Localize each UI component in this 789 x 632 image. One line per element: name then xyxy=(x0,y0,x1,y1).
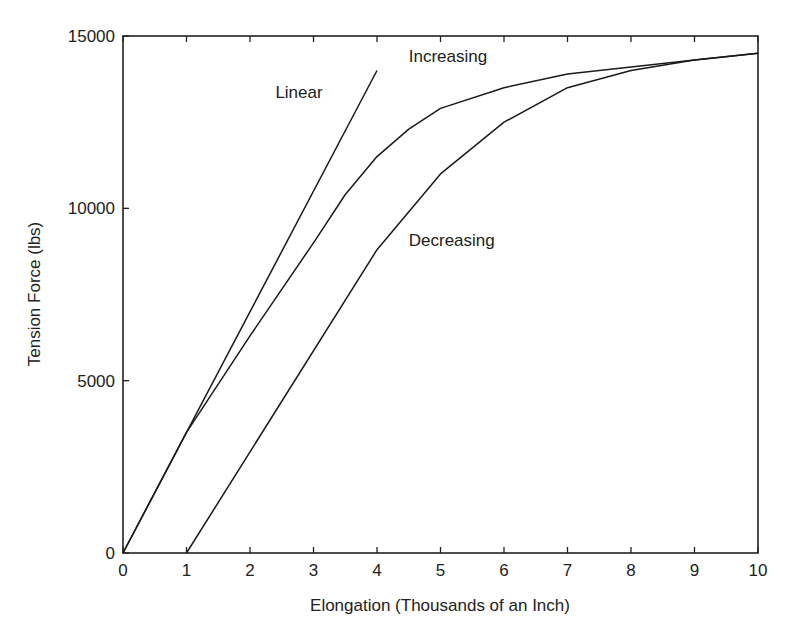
y-tick-label: 0 xyxy=(106,544,115,563)
x-tick-label: 1 xyxy=(182,561,191,580)
x-axis-ticks: 012345678910 xyxy=(118,36,767,580)
series-line-increasing xyxy=(123,53,758,553)
x-tick-label: 0 xyxy=(118,561,127,580)
series-labels: LinearIncreasingDecreasing xyxy=(275,47,494,250)
x-tick-label: 10 xyxy=(749,561,768,580)
series-label-decreasing: Decreasing xyxy=(409,231,495,250)
x-axis-title: Elongation (Thousands of an Inch) xyxy=(310,596,570,615)
series-label-increasing: Increasing xyxy=(409,47,487,66)
series-label-linear: Linear xyxy=(275,83,323,102)
x-tick-label: 3 xyxy=(309,561,318,580)
plot-border xyxy=(123,36,758,553)
x-tick-label: 4 xyxy=(372,561,381,580)
series-lines xyxy=(123,53,758,553)
plot-frame xyxy=(123,36,758,553)
x-tick-label: 9 xyxy=(690,561,699,580)
y-tick-label: 15000 xyxy=(68,27,115,46)
x-tick-label: 6 xyxy=(499,561,508,580)
y-tick-label: 10000 xyxy=(68,199,115,218)
y-tick-label: 5000 xyxy=(77,372,115,391)
x-tick-label: 8 xyxy=(626,561,635,580)
x-tick-label: 2 xyxy=(245,561,254,580)
x-tick-label: 5 xyxy=(436,561,445,580)
line-chart: 012345678910 050001000015000 LinearIncre… xyxy=(0,0,789,632)
x-tick-label: 7 xyxy=(563,561,572,580)
y-axis-ticks: 050001000015000 xyxy=(68,27,129,563)
y-axis-title: Tension Force (lbs) xyxy=(25,222,44,367)
